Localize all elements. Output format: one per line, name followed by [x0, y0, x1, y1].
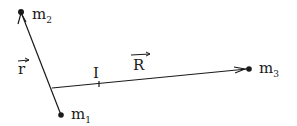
label-I: I — [93, 64, 99, 82]
mass-m2-dot — [18, 9, 24, 15]
label-m1: m1 — [71, 105, 91, 125]
label-vector-R: R — [133, 56, 145, 74]
mass-m3-dot — [246, 66, 252, 72]
three-body-diagram: m2 m1 m3 I r R — [0, 0, 297, 126]
vector-R-line — [52, 69, 247, 88]
label-m3: m3 — [259, 59, 279, 79]
vector-r-line — [21, 12, 61, 115]
diagram-svg: m2 m1 m3 I r R — [0, 0, 297, 126]
label-vector-r: r — [18, 60, 26, 78]
label-m2: m2 — [32, 5, 52, 25]
vector-R-overarrow-icon — [131, 54, 150, 55]
mass-m1-dot — [58, 112, 64, 118]
